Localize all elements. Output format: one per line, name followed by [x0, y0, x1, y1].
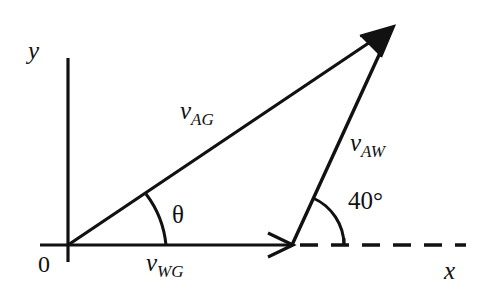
v-ag-label: vAG: [180, 98, 214, 123]
apex-arrowhead: [360, 26, 394, 57]
origin-label: 0: [38, 252, 50, 276]
v-aw-symbol: v: [350, 129, 361, 156]
theta-angle-arc: [146, 194, 166, 245]
vector-diagram-figure: y x 0 vAG vAW vWG θ 40°: [0, 0, 479, 296]
forty-degree-angle-arc: [313, 198, 344, 245]
v-ag-symbol: v: [180, 97, 191, 124]
v-ag-subscript: AG: [191, 110, 214, 129]
v-wg-label: vWG: [146, 250, 184, 275]
x-axis-label: x: [444, 258, 455, 283]
v-wg-subscript: WG: [157, 262, 183, 281]
forty-degree-angle-label: 40°: [348, 188, 383, 213]
v-wg-symbol: v: [146, 249, 157, 276]
v-aw-label: vAW: [350, 130, 385, 155]
y-axis-label: y: [28, 38, 39, 63]
theta-angle-label: θ: [172, 202, 184, 227]
vector-diagram-canvas: [0, 0, 479, 296]
v-aw-subscript: AW: [361, 142, 385, 161]
